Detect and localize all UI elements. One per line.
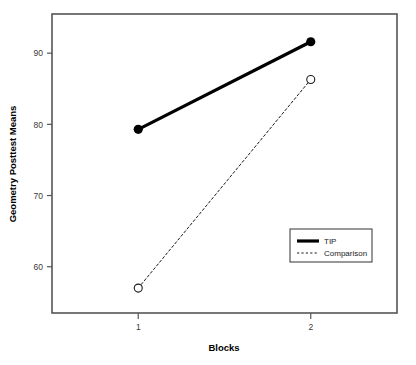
data-point-comparison-1[interactable]: [134, 284, 142, 292]
plot-area-background: [52, 14, 397, 313]
chart-legend[interactable]: TIP Comparison: [290, 229, 372, 262]
x-axis-tick-label: 2: [308, 322, 313, 332]
x-axis-tick-group: [138, 313, 311, 319]
y-axis-title: Geometry Posttest Means: [7, 106, 18, 223]
x-axis-title: Blocks: [208, 342, 239, 353]
chart-canvas: 60 70 80 90 1 2 TIP Comparison Bl: [0, 0, 416, 365]
y-axis-tick-label: 90: [34, 48, 44, 58]
legend-label-tip[interactable]: TIP: [324, 237, 336, 246]
data-point-comparison-2[interactable]: [307, 76, 315, 84]
data-point-tip-2[interactable]: [306, 37, 315, 46]
y-axis-tick-label-group: 60 70 80 90: [34, 48, 44, 272]
y-axis-tick-label: 80: [34, 120, 44, 130]
y-axis-tick-label: 70: [34, 191, 44, 201]
data-point-tip-1[interactable]: [134, 125, 143, 134]
interaction-plot-figure: 60 70 80 90 1 2 TIP Comparison Bl: [0, 0, 416, 365]
y-axis-tick-label: 60: [34, 262, 44, 272]
legend-label-comparison[interactable]: Comparison: [324, 249, 367, 258]
x-axis-tick-label-group: 1 2: [136, 322, 314, 332]
x-axis-tick-label: 1: [136, 322, 141, 332]
